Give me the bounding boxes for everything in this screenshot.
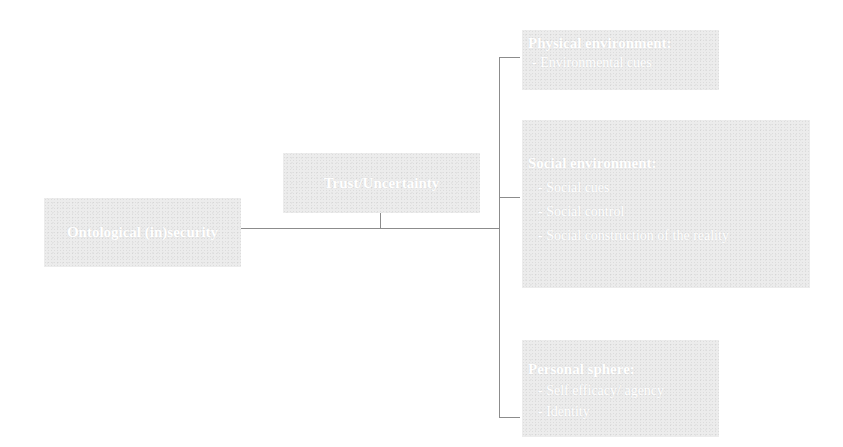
- node-social-environment: Social environment: - Social cues - Soci…: [522, 120, 810, 288]
- node-title: Personal sphere:: [528, 360, 713, 379]
- connector-root-to-spine: [241, 228, 500, 229]
- node-label: Ontological (in)security: [67, 223, 218, 242]
- node-item: - Environmental cues: [528, 53, 713, 72]
- node-ontological-insecurity: Ontological (in)security: [44, 198, 241, 267]
- node-item: - Social cues: [528, 178, 804, 197]
- connector-branch-social: [499, 197, 520, 198]
- node-label: Trust/Uncertainty: [324, 174, 440, 193]
- node-item: - Identity: [528, 402, 713, 421]
- node-title: Physical environment:: [528, 34, 713, 53]
- node-physical-environment: Physical environment: - Environmental cu…: [522, 30, 719, 90]
- connector-branch-physical: [499, 57, 520, 58]
- node-item: - Self efficacy/ agency: [528, 381, 713, 400]
- node-item: - Social control: [528, 202, 804, 221]
- connector-mediator-stub: [380, 213, 381, 229]
- node-item: - Social construction of the reality: [528, 226, 804, 245]
- connector-spine: [499, 57, 500, 418]
- node-personal-sphere: Personal sphere: - Self efficacy/ agency…: [522, 340, 719, 437]
- connector-branch-personal: [499, 417, 520, 418]
- node-title: Social environment:: [528, 154, 804, 173]
- node-trust-uncertainty: Trust/Uncertainty: [283, 153, 480, 213]
